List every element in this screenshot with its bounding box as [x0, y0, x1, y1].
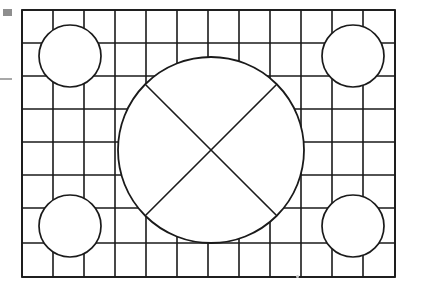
scan-artifact-square: [3, 9, 12, 16]
corner-circle-bottom-left: [39, 195, 101, 257]
scan-artifact-speck: [296, 275, 299, 278]
test-card-figure: [0, 0, 422, 287]
scan-artifact-dash: [0, 78, 12, 80]
corner-circle-bottom-right: [322, 195, 384, 257]
corner-circle-top-right: [322, 25, 384, 87]
test-card-canvas: [0, 0, 422, 287]
corner-circle-top-left: [39, 25, 101, 87]
